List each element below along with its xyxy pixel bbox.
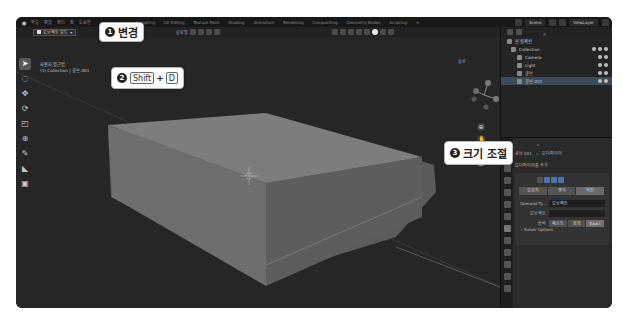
move-tool-icon[interactable]: ✥ <box>19 88 31 100</box>
transform-orientation-dropdown[interactable]: 글로벌 <box>176 29 188 35</box>
scene-icon[interactable] <box>515 19 522 26</box>
constraints-tab-icon[interactable] <box>504 261 511 268</box>
annotate-tool-icon[interactable]: ✎ <box>19 148 31 160</box>
particles-tab-icon[interactable] <box>504 237 511 244</box>
select-tool-icon[interactable]: ➤ <box>19 58 31 70</box>
pivot-icon[interactable] <box>190 29 196 35</box>
tab-animation[interactable]: Animation <box>254 20 274 25</box>
proportional-edit-icon[interactable] <box>214 29 220 35</box>
operand-label: Operand Ty... <box>519 201 549 206</box>
step-number-badge: 1 <box>105 27 115 37</box>
options-dropdown[interactable]: 옵션 <box>458 58 466 64</box>
operand-type-dropdown[interactable]: 오브젝트 <box>549 200 605 207</box>
tab-shading[interactable]: Shading <box>228 20 244 25</box>
outliner-item-collection[interactable]: Collection <box>501 45 612 53</box>
scale-tool-icon[interactable]: ◰ <box>19 118 31 130</box>
menu-render[interactable]: 렌더 <box>57 19 65 25</box>
outliner-item-camera[interactable]: Camera <box>501 53 612 61</box>
visibility-toggles[interactable] <box>596 55 608 59</box>
modifier-tab-icon[interactable] <box>504 225 511 232</box>
navigation-gizmo[interactable] <box>466 77 500 117</box>
tab-texture-paint[interactable]: Texture Paint <box>194 20 220 25</box>
scene-browse-icon[interactable] <box>549 19 556 26</box>
3d-viewport[interactable]: ➤ ◌ ✥ ⟳ ◰ ⊕ ✎ ◣ ▣ 사용자 원근법 (1) Collection… <box>16 37 500 308</box>
world-tab-icon[interactable] <box>504 201 511 208</box>
callout-step1: 1 변경 <box>99 22 144 42</box>
tab-compositing[interactable]: Compositing <box>312 20 337 25</box>
solver-buttons: 패스트 정확 Exact <box>549 220 605 227</box>
search-icon[interactable]: ⌕ <box>537 142 539 147</box>
solver-option[interactable]: 정확 <box>568 220 586 227</box>
data-tab-icon[interactable] <box>504 273 511 280</box>
outliner-item-light[interactable]: Light <box>501 61 612 69</box>
material-tab-icon[interactable] <box>504 285 511 292</box>
view-layer-field[interactable]: ViewLayer <box>569 19 598 26</box>
object-field[interactable] <box>549 210 605 217</box>
tab-rendering[interactable]: Rendering <box>283 20 303 25</box>
add-workspace-button[interactable]: + <box>416 20 419 25</box>
gizmo-x-axis <box>493 96 499 102</box>
measure-tool-icon[interactable]: ◣ <box>19 163 31 175</box>
output-tab-icon[interactable] <box>504 165 511 172</box>
physics-tab-icon[interactable] <box>504 249 511 256</box>
modifier-display-toggles[interactable] <box>537 177 565 183</box>
shading-wireframe-icon[interactable] <box>364 29 370 35</box>
zoom-view-icon[interactable]: ⊕ <box>477 123 485 131</box>
solver-option[interactable]: 패스트 <box>549 220 567 227</box>
shading-rendered-icon[interactable] <box>388 29 394 35</box>
view-layer-tab-icon[interactable] <box>504 177 511 184</box>
viewport-info: 사용자 원근법 (1) Collection | 큐브.001 <box>40 62 89 74</box>
visibility-toggles[interactable] <box>596 71 608 75</box>
properties-header: ⌕ <box>513 138 612 150</box>
menu-window[interactable]: 창 <box>70 19 74 25</box>
visibility-toggles[interactable] <box>590 47 608 51</box>
segment-option[interactable]: 엣지 <box>548 187 576 195</box>
menu-edit[interactable]: 편집 <box>44 19 52 25</box>
visibility-icon[interactable] <box>332 29 338 35</box>
solver-options-subpanel[interactable]: › Solver Options <box>521 227 553 232</box>
snap-target-icon[interactable] <box>206 29 212 35</box>
solver-row: 솔버 패스트 정확 Exact <box>519 219 605 227</box>
xray-icon[interactable] <box>356 29 362 35</box>
viewport-header: 오브젝트 모드 ▾ 글로벌 <box>16 27 500 37</box>
snap-icon[interactable] <box>198 29 204 35</box>
scene-canvas <box>16 37 500 308</box>
view-layer-icon[interactable] <box>559 19 566 26</box>
outliner-item-cube[interactable]: 큐브 <box>501 69 612 77</box>
shading-material-icon[interactable] <box>380 29 386 35</box>
outliner-root[interactable]: 씬 컬렉션 <box>501 37 612 45</box>
visibility-toggles[interactable] <box>596 79 608 83</box>
outliner-item-cube-001[interactable]: 큐브.001 <box>501 77 612 85</box>
tab-geometry-nodes[interactable]: Geometry Nodes <box>347 20 381 25</box>
mode-label: 오브젝트 모드 <box>43 29 68 35</box>
object-mode-icon <box>37 30 41 34</box>
breadcrumb-object: 큐브.001 <box>515 151 532 156</box>
light-icon <box>517 63 522 68</box>
properties-editor: ⌕ 큐브.001 › 모디파이어 모디파이어를 추가 오리지 엣지 직선 Ope… <box>500 137 612 308</box>
segment-option[interactable]: 직선 <box>576 187 604 195</box>
menu-help[interactable]: 도움말 <box>79 19 91 25</box>
shading-solid-icon[interactable] <box>372 29 378 35</box>
outliner-editor-icon[interactable] <box>507 29 513 35</box>
cursor-tool-icon[interactable]: ◌ <box>19 73 31 85</box>
tab-scripting[interactable]: Scripting <box>389 20 407 25</box>
overlay-toggle-icon[interactable] <box>348 29 354 35</box>
tab-uv-editing[interactable]: UV Editing <box>164 20 185 25</box>
outliner-filter-mode-icon[interactable] <box>516 29 522 35</box>
rotate-tool-icon[interactable]: ⟳ <box>19 103 31 115</box>
visibility-toggles[interactable] <box>596 63 608 67</box>
add-modifier-button[interactable]: 모디파이어를 추가 <box>515 161 609 170</box>
mode-dropdown[interactable]: 오브젝트 모드 ▾ <box>33 29 76 36</box>
object-tab-icon[interactable] <box>504 213 511 220</box>
gizmo-toggle-icon[interactable] <box>340 29 346 35</box>
scene-tab-icon[interactable] <box>504 189 511 196</box>
scene-field[interactable]: Scene <box>525 19 545 26</box>
operation-segmented[interactable]: 오리지 엣지 직선 <box>519 187 605 195</box>
blender-logo-icon[interactable]: ◉ <box>20 19 28 26</box>
solver-option[interactable]: Exact <box>586 220 604 227</box>
menu-file[interactable]: 파일 <box>31 19 39 25</box>
segment-option[interactable]: 오리지 <box>519 187 547 195</box>
view-layer-browse-icon[interactable] <box>602 19 609 26</box>
transform-tool-icon[interactable]: ⊕ <box>19 133 31 145</box>
add-cube-tool-icon[interactable]: ▣ <box>19 178 31 190</box>
